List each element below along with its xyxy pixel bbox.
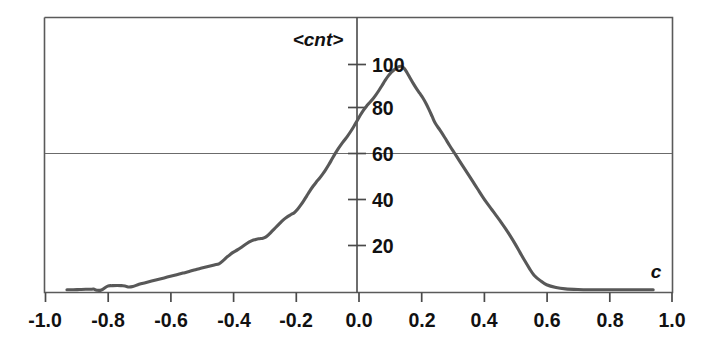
y-tick-label-100: 100 xyxy=(372,54,405,76)
x-tick-labels: -1.0 -0.8 -0.6 -0.4 -0.2 0.0 0.2 0.4 0.6… xyxy=(28,309,686,331)
x-tick-label--0.4: -0.4 xyxy=(217,309,251,331)
x-tick-label-0.0: 0.0 xyxy=(345,309,372,331)
x-tick-label--1.0: -1.0 xyxy=(28,309,62,331)
y-tick-label-20: 20 xyxy=(372,235,394,257)
data-curve-cnt xyxy=(67,66,653,290)
y-axis-title: <cnt> xyxy=(293,29,344,50)
x-tick-label-0.2: 0.2 xyxy=(408,309,435,331)
x-tick-label-0.4: 0.4 xyxy=(470,309,497,331)
x-tick-label--0.2: -0.2 xyxy=(279,309,313,331)
x-axis-ticks xyxy=(46,293,673,303)
chart-figure: -1.0 -0.8 -0.6 -0.4 -0.2 0.0 0.2 0.4 0.6… xyxy=(0,0,722,352)
x-tick-label--0.8: -0.8 xyxy=(91,309,125,331)
x-axis-title: c xyxy=(651,261,662,282)
x-tick-label-0.6: 0.6 xyxy=(533,309,560,331)
y-tick-label-40: 40 xyxy=(372,189,394,211)
distribution-plot: -1.0 -0.8 -0.6 -0.4 -0.2 0.0 0.2 0.4 0.6… xyxy=(0,0,722,352)
plot-frame xyxy=(45,18,673,293)
x-tick-label-0.8: 0.8 xyxy=(596,309,623,331)
y-tick-label-60: 60 xyxy=(372,143,394,165)
x-tick-label--0.6: -0.6 xyxy=(154,309,188,331)
y-tick-labels: 20 40 60 80 100 xyxy=(372,54,405,257)
x-tick-label-1.0: 1.0 xyxy=(658,309,685,331)
y-tick-label-80: 80 xyxy=(372,97,394,119)
